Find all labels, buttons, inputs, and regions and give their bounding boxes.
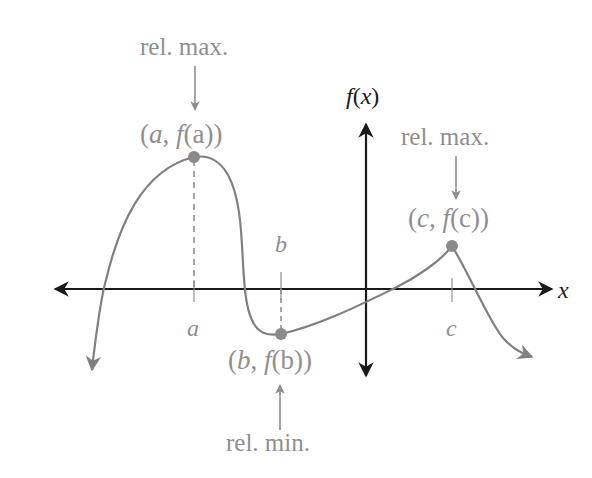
- annotation-rel-max-c: rel. max.: [401, 123, 489, 150]
- point-label-a: (a, f(a)): [140, 119, 222, 149]
- tick-label-c: c: [446, 315, 457, 341]
- tick-label-b: b: [275, 231, 287, 257]
- curve-left-arrow-icon: [92, 360, 93, 370]
- annotation-rel-max-a: rel. max.: [140, 33, 228, 60]
- point-b-min: [275, 328, 287, 340]
- point-label-b: (b, f(b)): [228, 345, 312, 375]
- tick-label-a: a: [187, 315, 199, 341]
- relative-extrema-diagram: x f(x) a b c (a, f(a)) (b, f(b)) (c, f(c…: [0, 0, 592, 478]
- point-c-max: [446, 240, 458, 252]
- y-axis-label: f(x): [346, 83, 379, 109]
- point-label-c: (c, f(c)): [408, 203, 489, 233]
- x-axis-label: x: [557, 277, 569, 303]
- function-curve: [92, 156, 530, 368]
- point-a-max: [188, 151, 200, 163]
- annotation-rel-min-b: rel. min.: [226, 429, 310, 456]
- curve-right-arrow-icon: [522, 353, 532, 357]
